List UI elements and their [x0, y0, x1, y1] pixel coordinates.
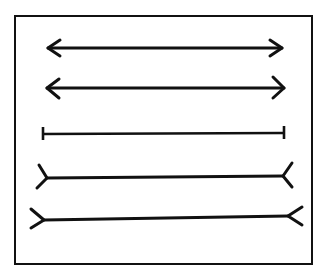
- line-plain-ticks: [43, 126, 284, 140]
- right-fin-icon: [283, 163, 292, 187]
- muller-lyer-diagram: [0, 0, 331, 278]
- left-fin-icon: [37, 165, 47, 188]
- line-arrowheads-1: [48, 40, 282, 56]
- line-fins-1: [37, 163, 292, 188]
- line-fins-2: [31, 207, 302, 228]
- frame-border: [15, 16, 312, 264]
- line-arrowheads-2: [47, 77, 284, 98]
- left-fin-icon: [31, 209, 44, 228]
- right-fin-icon: [288, 207, 302, 225]
